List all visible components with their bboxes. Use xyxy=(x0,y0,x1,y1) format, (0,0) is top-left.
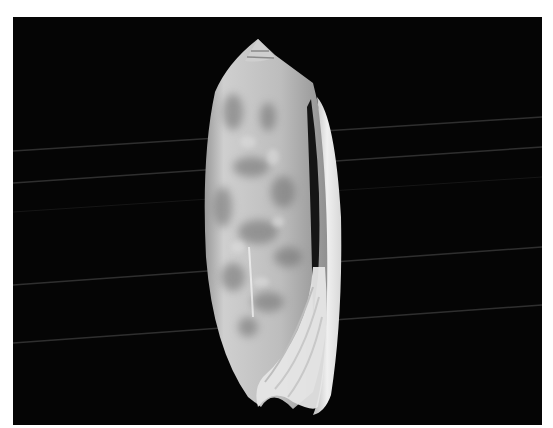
shell-illustration xyxy=(13,17,542,425)
shell-photo xyxy=(13,17,542,425)
